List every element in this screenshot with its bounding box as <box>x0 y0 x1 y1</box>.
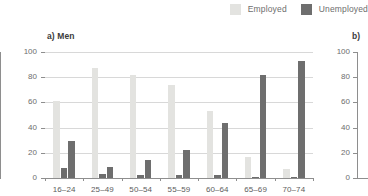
y-tick-mark <box>353 102 357 103</box>
bar-unemployed-4 <box>222 123 229 178</box>
bar-employed-2 <box>130 75 137 178</box>
bar-series2-3 <box>176 175 183 178</box>
y-tick-label: 100 <box>11 48 37 56</box>
bar-employed-0 <box>53 101 60 178</box>
x-tick-label: 16–24 <box>45 185 83 194</box>
gridline <box>45 102 313 103</box>
bar-unemployed-1 <box>107 167 114 178</box>
chart-page: Employed Unemployed a) Men 020406080100 … <box>0 0 368 196</box>
y-axis-line-women <box>357 52 358 179</box>
gridline <box>45 52 313 53</box>
y-tick-mark <box>353 178 357 179</box>
legend-label-employed: Employed <box>248 4 287 15</box>
x-tick-label: 65–69 <box>236 185 274 194</box>
bar-series2-1 <box>99 174 106 178</box>
gridline <box>45 128 313 129</box>
x-axis-line-women <box>357 178 368 179</box>
panel-women-title: b) <box>352 31 360 41</box>
y-tick-label: 80 <box>330 73 350 81</box>
bar-employed-6 <box>283 169 290 178</box>
y-tick-label: 20 <box>11 149 37 157</box>
x-tick-mark <box>198 178 199 181</box>
y-tick-mark <box>41 77 45 78</box>
y-tick-label: 80 <box>11 73 37 81</box>
bar-unemployed-0 <box>68 141 75 178</box>
bar-unemployed-6 <box>298 61 305 178</box>
panel-women-cropped: b) 020406080100 <box>330 24 368 196</box>
legend-swatch-unemployed <box>301 4 312 15</box>
x-tick-label: 55–59 <box>160 185 198 194</box>
y-tick-mark <box>353 52 357 53</box>
y-tick-mark <box>353 153 357 154</box>
legend-swatch-employed <box>230 4 241 15</box>
y-tick-label: 60 <box>11 98 37 106</box>
y-axis-line-men <box>0 52 1 179</box>
legend-item-unemployed: Unemployed <box>301 4 368 15</box>
chart-legend: Employed Unemployed <box>0 1 368 17</box>
y-tick-label: 100 <box>330 48 350 56</box>
y-tick-mark <box>41 153 45 154</box>
x-tick-mark <box>45 178 46 181</box>
bar-series2-2 <box>137 175 144 178</box>
x-tick-mark <box>236 178 237 181</box>
y-tick-mark <box>353 128 357 129</box>
y-tick-label: 60 <box>330 98 350 106</box>
legend-item-employed: Employed <box>230 4 287 15</box>
y-tick-label: 20 <box>330 149 350 157</box>
bar-unemployed-3 <box>183 150 190 178</box>
gridline <box>45 153 313 154</box>
y-tick-mark <box>353 77 357 78</box>
y-tick-label: 40 <box>330 124 350 132</box>
panel-men-title: a) Men <box>47 31 75 41</box>
y-tick-label: 0 <box>330 174 350 182</box>
x-tick-label: 25–49 <box>83 185 121 194</box>
bar-employed-1 <box>92 68 99 178</box>
y-tick-mark <box>41 128 45 129</box>
y-tick-label: 0 <box>11 174 37 182</box>
bar-employed-4 <box>207 111 214 178</box>
y-tick-label: 40 <box>11 124 37 132</box>
bar-unemployed-5 <box>260 75 267 178</box>
x-tick-mark <box>160 178 161 181</box>
bar-employed-5 <box>245 157 252 178</box>
x-tick-mark <box>83 178 84 181</box>
bar-series2-5 <box>252 177 259 178</box>
y-tick-mark <box>41 52 45 53</box>
legend-label-unemployed: Unemployed <box>319 4 368 15</box>
gridline <box>45 77 313 78</box>
bar-employed-3 <box>168 85 175 178</box>
x-tick-mark <box>313 178 314 181</box>
bar-series2-4 <box>214 175 221 178</box>
x-tick-mark <box>122 178 123 181</box>
x-tick-label: 60–64 <box>198 185 236 194</box>
x-tick-label: 50–54 <box>122 185 160 194</box>
x-axis-line-men <box>45 178 313 179</box>
x-tick-label: 70–74 <box>275 185 313 194</box>
bar-series2-6 <box>291 177 298 178</box>
y-tick-mark <box>41 102 45 103</box>
panel-men: a) Men 020406080100 16–2425–4950–5455–59… <box>0 24 330 196</box>
bar-unemployed-2 <box>145 160 152 178</box>
x-tick-mark <box>275 178 276 181</box>
bar-series2-0 <box>61 168 68 178</box>
